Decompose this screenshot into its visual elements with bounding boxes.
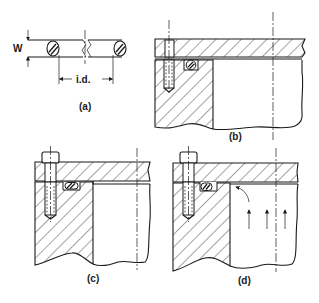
- panel-label-a: (a): [79, 101, 91, 112]
- panel-label-b: (b): [229, 131, 242, 142]
- housing-break-line: [93, 184, 150, 265]
- break-line: [82, 40, 86, 57]
- panel-label-d: (d): [238, 275, 251, 286]
- o-ring-section-right: [114, 41, 126, 56]
- w-dimension-label: W: [13, 43, 23, 54]
- o-ring-section-left: [47, 41, 59, 56]
- o-ring: [186, 60, 196, 70]
- bolt-hole-cover: [165, 40, 174, 57]
- id-dimension-label: i.d.: [76, 74, 91, 85]
- cover-plate: [155, 39, 305, 57]
- housing-break-line: [213, 60, 303, 130]
- panel-b: (b): [155, 12, 305, 142]
- panel-d: (d): [173, 146, 298, 286]
- housing-wall: [173, 183, 230, 271]
- panel-a: W i.d. (a): [13, 30, 126, 112]
- housing-break-line: [230, 184, 298, 268]
- housing-wall: [35, 182, 93, 265]
- panel-label-c: (c): [87, 273, 99, 284]
- o-ring-diagram: W i.d. (a) (b): [0, 0, 319, 303]
- pressure-flow-arrow-curved: [236, 187, 249, 202]
- panel-c: (c): [35, 146, 150, 284]
- break-line: [87, 40, 91, 57]
